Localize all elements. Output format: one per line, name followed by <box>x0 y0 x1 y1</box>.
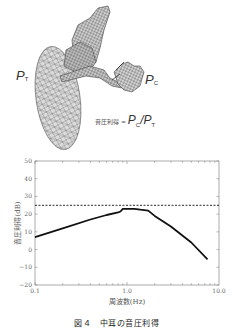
y-tick-label: 10 <box>24 228 32 235</box>
plot-frame <box>35 161 219 285</box>
y-tick-label: 20 <box>24 210 32 217</box>
middle-ear-3d-model <box>0 0 233 158</box>
pt-label: PT <box>16 68 28 83</box>
x-axis-label: 周波数(Hz) <box>109 297 146 306</box>
gain-formula: 音圧利得 = PC/PT <box>95 113 155 128</box>
chart-series <box>35 205 219 259</box>
figure-caption: 図４ 中耳の音圧利得 <box>0 317 233 328</box>
y-tick-label: 0 <box>28 246 32 253</box>
ossicle-mesh <box>60 6 144 92</box>
y-axis-label: 音圧利得(dB) <box>13 201 22 244</box>
chart-axes: 50403020100−10−200.11.010.0周波数(Hz)音圧利得(d… <box>13 157 226 306</box>
x-tick-label: 0.1 <box>30 287 40 294</box>
x-tick-label: 10.0 <box>212 287 226 294</box>
pc-label: PC <box>145 72 158 87</box>
y-tick-label: 50 <box>24 157 32 164</box>
y-tick-label: 40 <box>24 175 32 182</box>
gain-chart: 50403020100−10−200.11.010.0周波数(Hz)音圧利得(d… <box>0 150 233 310</box>
y-tick-label: 30 <box>24 192 32 199</box>
gain-curve <box>35 209 208 259</box>
y-tick-label: −10 <box>19 263 32 270</box>
x-tick-label: 1.0 <box>122 287 132 294</box>
